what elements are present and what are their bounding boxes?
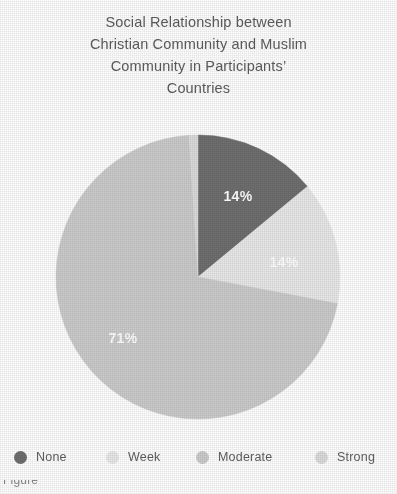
pie-slice-group	[56, 135, 340, 419]
legend-swatch-icon	[106, 451, 119, 464]
pie-chart: 14%14%71%	[0, 0, 397, 436]
pie-label-none: 14%	[224, 188, 253, 204]
pie-chart-svg: 14%14%71%	[0, 0, 397, 436]
legend-label: None	[36, 450, 67, 464]
footnote-fragment-text: Figure1	[3, 480, 43, 487]
legend-item-moderate[interactable]: Moderate	[196, 444, 272, 470]
legend-swatch-icon	[196, 451, 209, 464]
legend-swatch-icon	[315, 451, 328, 464]
footnote-marker: 1	[38, 480, 43, 481]
footnote-label: Figure	[3, 480, 38, 487]
legend-label: Moderate	[218, 450, 272, 464]
chart-legend: NoneWeekModerateStrong	[0, 444, 397, 470]
pie-label-week: 14%	[270, 254, 299, 270]
legend-item-strong[interactable]: Strong	[315, 444, 375, 470]
legend-swatch-icon	[14, 451, 27, 464]
legend-item-week[interactable]: Week	[106, 444, 161, 470]
chart-page: Social Relationship between Christian Co…	[0, 0, 397, 494]
footnote-fragment: Figure1	[3, 480, 133, 494]
pie-label-moderate: 71%	[109, 330, 138, 346]
legend-item-none[interactable]: None	[14, 444, 67, 470]
legend-label: Strong	[337, 450, 375, 464]
legend-label: Week	[128, 450, 161, 464]
